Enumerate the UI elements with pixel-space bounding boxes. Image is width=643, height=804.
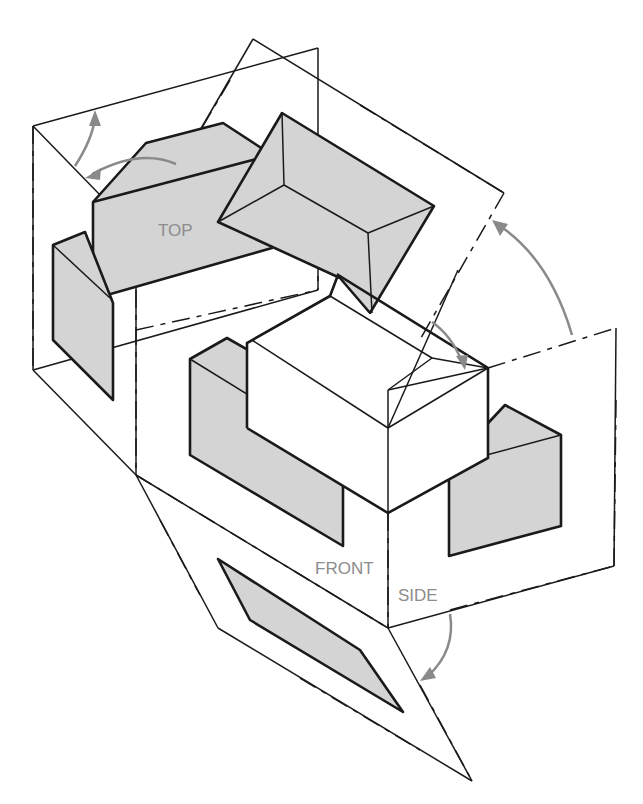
- bottom-view-projection: [218, 559, 403, 712]
- side-label: SIDE: [398, 586, 438, 605]
- top-label: TOP: [158, 221, 193, 240]
- front-label: FRONT: [315, 559, 374, 578]
- glass-box-diagram: TOP FRONT SIDE: [0, 0, 643, 804]
- rotation-arrow-bottom: [420, 614, 451, 681]
- rotation-arrow-top: [75, 110, 101, 166]
- rotation-arrow-rear: [492, 220, 572, 335]
